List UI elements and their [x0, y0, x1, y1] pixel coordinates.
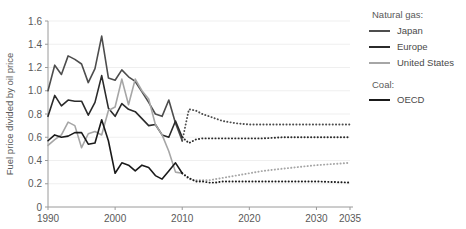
legend-item-japan[interactable]: Japan — [369, 23, 466, 39]
y-tick-label: 1.6 — [28, 16, 42, 27]
x-tick-label: 2035 — [339, 213, 362, 224]
legend-group-header-natural-gas: Natural gas: — [369, 10, 466, 20]
y-tick-label: 1.4 — [28, 39, 42, 50]
y-tick-label: 0 — [36, 202, 42, 213]
y-tick-label: 1.0 — [28, 85, 42, 96]
x-tick-label: 2000 — [104, 213, 127, 224]
y-axis-ticks: 00.20.40.60.81.01.21.41.6 — [28, 16, 48, 213]
legend-item-united-states[interactable]: United States — [369, 55, 466, 71]
chart-container: Fuel price divided by oil price 00.20.40… — [0, 0, 466, 229]
y-tick-label: 0.4 — [28, 155, 42, 166]
series-projection-europe — [182, 137, 350, 143]
y-tick-label: 0.6 — [28, 132, 42, 143]
chart-legend: Natural gas: Japan Europe United States … — [369, 10, 466, 108]
legend-group-header-coal: Coal: — [369, 80, 466, 90]
series-projection-oecd — [182, 173, 350, 182]
x-tick-label: 2020 — [238, 213, 261, 224]
y-axis-title-group: Fuel price divided by oil price — [4, 53, 15, 176]
y-tick-label: 1.2 — [28, 62, 42, 73]
legend-label-oecd: OECD — [397, 95, 424, 105]
y-gridlines — [48, 21, 350, 184]
y-axis-title: Fuel price divided by oil price — [4, 53, 15, 176]
legend-swatch-oecd — [369, 99, 390, 101]
x-tick-label: 1990 — [37, 213, 60, 224]
series-line-oecd — [48, 120, 182, 179]
series-projection-united-states — [182, 163, 350, 180]
legend-item-europe[interactable]: Europe — [369, 39, 466, 55]
legend-group-coal: Coal: OECD — [369, 80, 466, 109]
legend-label-united-states: United States — [397, 58, 454, 68]
series-line-japan — [48, 36, 182, 141]
y-tick-label: 0.8 — [28, 109, 42, 120]
legend-group-natural-gas: Natural gas: Japan Europe United States — [369, 10, 466, 71]
legend-swatch-united-states — [369, 62, 390, 64]
legend-label-japan: Japan — [397, 26, 423, 36]
x-axis-ticks: 199020002010202020302035 — [37, 207, 362, 224]
series-line-united-states — [48, 79, 182, 173]
legend-swatch-japan — [369, 30, 390, 32]
y-tick-label: 0.2 — [28, 178, 42, 189]
x-tick-label: 2030 — [305, 213, 328, 224]
legend-label-europe: Europe — [397, 42, 428, 52]
x-tick-label: 2010 — [171, 213, 194, 224]
legend-swatch-europe — [369, 46, 390, 48]
legend-item-oecd[interactable]: OECD — [369, 92, 466, 108]
